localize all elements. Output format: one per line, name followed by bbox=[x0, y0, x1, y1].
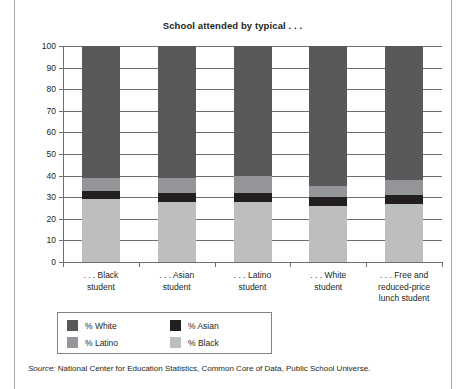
page-title: School attended by typical . . . bbox=[0, 20, 465, 31]
x-axis-label-2: . . . Latinostudent bbox=[210, 270, 296, 293]
x-tick-1 bbox=[139, 262, 140, 267]
x-tick-3 bbox=[290, 262, 291, 267]
x-tick-4 bbox=[366, 262, 367, 267]
x-axis-label-line: . . . Asian bbox=[134, 270, 220, 282]
y-tick-mark-90 bbox=[59, 68, 63, 69]
y-tick-label-80: 80 bbox=[47, 84, 56, 94]
y-tick-label-30: 30 bbox=[47, 192, 56, 202]
bar-segment-black[interactable] bbox=[82, 199, 120, 262]
source-note: Source: National Center for Education St… bbox=[28, 364, 448, 373]
gridline-0 bbox=[63, 262, 442, 263]
plot-area: 0102030405060708090100 bbox=[63, 46, 442, 262]
legend-item-white[interactable]: % White bbox=[67, 320, 117, 331]
x-tick-5 bbox=[442, 262, 443, 267]
y-tick-label-20: 20 bbox=[47, 214, 56, 224]
legend-label: % Latino bbox=[85, 338, 118, 348]
y-tick-mark-80 bbox=[59, 89, 63, 90]
legend-item-asian[interactable]: % Asian bbox=[170, 320, 219, 331]
bar-1[interactable] bbox=[158, 46, 196, 262]
bar-segment-black[interactable] bbox=[158, 202, 196, 262]
bar-segment-asian[interactable] bbox=[309, 197, 347, 206]
x-axis-label-line: . . . White bbox=[285, 270, 371, 282]
legend-swatch-icon bbox=[67, 320, 78, 331]
bar-segment-black[interactable] bbox=[234, 202, 272, 262]
y-tick-mark-50 bbox=[59, 154, 63, 155]
x-axis-label-1: . . . Asianstudent bbox=[134, 270, 220, 293]
x-axis-label-0: . . . Blackstudent bbox=[58, 270, 144, 293]
x-axis-label-line: student bbox=[134, 282, 220, 294]
figure-right-rule bbox=[451, 0, 452, 389]
y-tick-label-70: 70 bbox=[47, 106, 56, 116]
legend-item-black[interactable]: % Black bbox=[170, 337, 219, 348]
bar-segment-asian[interactable] bbox=[82, 191, 120, 200]
bar-segment-white[interactable] bbox=[309, 46, 347, 186]
bar-segment-black[interactable] bbox=[309, 206, 347, 262]
y-tick-mark-40 bbox=[59, 176, 63, 177]
bar-segment-latino[interactable] bbox=[158, 178, 196, 193]
y-tick-label-50: 50 bbox=[47, 149, 56, 159]
y-tick-label-0: 0 bbox=[51, 257, 56, 267]
bar-segment-latino[interactable] bbox=[385, 180, 423, 195]
y-tick-label-60: 60 bbox=[47, 127, 56, 137]
bar-segment-white[interactable] bbox=[158, 46, 196, 178]
bar-segment-latino[interactable] bbox=[82, 178, 120, 191]
legend-swatch-icon bbox=[170, 337, 181, 348]
x-axis-label-line: student bbox=[285, 282, 371, 294]
bar-segment-asian[interactable] bbox=[234, 193, 272, 202]
y-tick-label-10: 10 bbox=[47, 235, 56, 245]
source-prefix: Source: bbox=[28, 364, 56, 373]
bar-4[interactable] bbox=[385, 46, 423, 262]
bar-segment-white[interactable] bbox=[82, 46, 120, 178]
legend-label: % Black bbox=[188, 338, 219, 348]
y-tick-label-90: 90 bbox=[47, 63, 56, 73]
bar-segment-latino[interactable] bbox=[234, 176, 272, 193]
x-axis-label-line: . . . Free and bbox=[361, 270, 447, 282]
bar-segment-black[interactable] bbox=[385, 204, 423, 262]
y-tick-label-40: 40 bbox=[47, 171, 56, 181]
legend-item-latino[interactable]: % Latino bbox=[67, 337, 118, 348]
y-tick-mark-20 bbox=[59, 219, 63, 220]
x-axis-label-4: . . . Free andreduced-pricelunch student bbox=[361, 270, 447, 305]
figure-container: School attended by typical . . . 0102030… bbox=[0, 0, 465, 389]
y-tick-mark-100 bbox=[59, 46, 63, 47]
x-tick-0 bbox=[63, 262, 64, 267]
x-axis-label-line: . . . Latino bbox=[210, 270, 296, 282]
bar-segment-asian[interactable] bbox=[158, 193, 196, 202]
figure-left-rule bbox=[14, 0, 15, 389]
x-axis-label-line: student bbox=[58, 282, 144, 294]
x-axis-label-line: lunch student bbox=[361, 293, 447, 305]
x-axis-label-line: . . . Black bbox=[58, 270, 144, 282]
y-tick-mark-70 bbox=[59, 111, 63, 112]
y-tick-label-100: 100 bbox=[42, 41, 56, 51]
y-tick-mark-30 bbox=[59, 197, 63, 198]
legend-label: % White bbox=[85, 321, 117, 331]
bar-3[interactable] bbox=[309, 46, 347, 262]
bar-segment-asian[interactable] bbox=[385, 195, 423, 204]
bar-segment-latino[interactable] bbox=[309, 186, 347, 197]
y-tick-mark-10 bbox=[59, 240, 63, 241]
x-axis-label-line: student bbox=[210, 282, 296, 294]
bar-segment-white[interactable] bbox=[385, 46, 423, 180]
source-text: National Center for Education Statistics… bbox=[56, 364, 371, 373]
legend-swatch-icon bbox=[67, 337, 78, 348]
legend-swatch-icon bbox=[170, 320, 181, 331]
y-tick-mark-60 bbox=[59, 132, 63, 133]
bar-2[interactable] bbox=[234, 46, 272, 262]
legend-label: % Asian bbox=[188, 321, 219, 331]
bar-0[interactable] bbox=[82, 46, 120, 262]
x-axis-label-3: . . . Whitestudent bbox=[285, 270, 371, 293]
bar-segment-white[interactable] bbox=[234, 46, 272, 176]
x-tick-2 bbox=[215, 262, 216, 267]
chart-legend: % White% Asian% Latino% Black bbox=[57, 312, 272, 354]
x-axis-label-line: reduced-price bbox=[361, 282, 447, 294]
